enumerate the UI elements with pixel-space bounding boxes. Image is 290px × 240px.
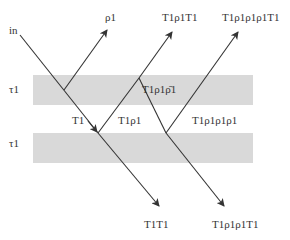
output-top-3: T1ρ1ρ1ρ1T1 <box>222 11 279 23</box>
diagram-canvas <box>0 0 290 240</box>
inner-label-t1: T1 <box>72 114 84 126</box>
ray-t1-arrow <box>88 121 97 132</box>
inner-label-t1rho1: T1ρ1 <box>118 114 141 126</box>
output-bottom-1: T1T1 <box>144 218 168 230</box>
incoming-label: in <box>9 24 18 36</box>
output-top-2: T1ρ1T1 <box>162 11 197 23</box>
ray-t1rho1t1 <box>139 32 172 78</box>
layer-label-bottom: τ1 <box>9 137 19 149</box>
layer-label-top: τ1 <box>9 83 19 95</box>
inner-label-t1rho1rho1rho1: T1ρ1ρ1ρ1 <box>192 114 237 126</box>
output-bottom-2: T1ρ1ρ1T1 <box>212 218 258 230</box>
output-top-1: ρ1 <box>105 11 116 23</box>
inner-label-t1rho1rhobar1: T1ρ1ρ̄1 <box>142 83 176 95</box>
layer-bottom <box>33 133 253 163</box>
